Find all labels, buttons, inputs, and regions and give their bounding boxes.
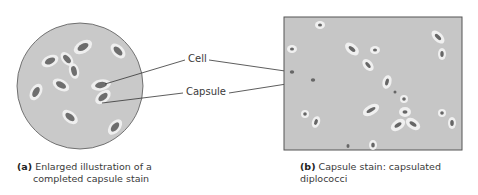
caption-panel-b: (b) Capsule stain: capsulated diplococci (300, 161, 478, 185)
capsule-label: Capsule (186, 86, 226, 97)
panel-a-tag: (a) (17, 161, 32, 172)
capsule-stain-figure: Cell Capsule (a) Enlarged illustration o… (0, 0, 478, 195)
caption-a-line1: Enlarged illustration of a (35, 161, 152, 172)
caption-b-text: Capsule stain: capsulated diplococci (300, 161, 441, 184)
illustration-circle (17, 23, 143, 149)
cell-label: Cell (188, 53, 207, 64)
caption-a-line2: completed capsule stain (17, 173, 152, 185)
micrograph-photo (284, 17, 462, 150)
caption-panel-a: (a) Enlarged illustration of a completed… (17, 161, 152, 185)
panel-b-tag: (b) (300, 161, 315, 172)
